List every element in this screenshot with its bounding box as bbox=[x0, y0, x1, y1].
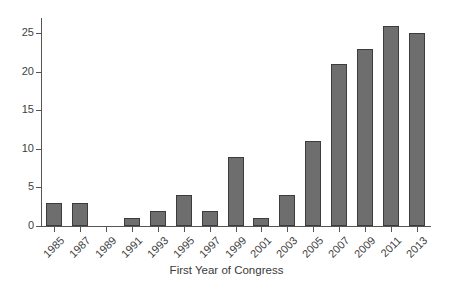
y-axis-tick-label: 20 bbox=[0, 66, 34, 77]
x-axis-tick bbox=[287, 227, 288, 232]
x-axis-tick bbox=[417, 227, 418, 232]
bar bbox=[72, 203, 88, 226]
bar bbox=[305, 141, 321, 226]
bar bbox=[383, 26, 399, 226]
x-axis-tick bbox=[184, 227, 185, 232]
bar-chart: 0510152025 19851987198919911993199519971… bbox=[0, 0, 453, 295]
x-axis-tick bbox=[106, 227, 107, 232]
bar bbox=[176, 195, 192, 226]
x-axis-tick bbox=[54, 227, 55, 232]
bar bbox=[331, 64, 347, 226]
bar bbox=[46, 203, 62, 226]
x-axis-tick bbox=[261, 227, 262, 232]
y-axis-tick-label: 15 bbox=[0, 104, 34, 115]
bar bbox=[253, 218, 269, 226]
x-axis-tick bbox=[339, 227, 340, 232]
x-axis-tick bbox=[210, 227, 211, 232]
x-axis-tick bbox=[391, 227, 392, 232]
bar bbox=[202, 211, 218, 226]
x-axis-tick bbox=[158, 227, 159, 232]
bar bbox=[124, 218, 140, 226]
x-axis-tick bbox=[365, 227, 366, 232]
y-axis-tick-label: 25 bbox=[0, 27, 34, 38]
bar bbox=[409, 33, 425, 226]
x-axis-tick bbox=[236, 227, 237, 232]
bar bbox=[150, 211, 166, 226]
bar bbox=[357, 49, 373, 226]
x-axis-tick bbox=[313, 227, 314, 232]
x-axis-title: First Year of Congress bbox=[0, 263, 453, 277]
x-axis-tick bbox=[80, 227, 81, 232]
bars-group bbox=[41, 18, 430, 226]
y-axis-tick-label: 5 bbox=[0, 181, 34, 192]
y-axis-tick-label: 10 bbox=[0, 143, 34, 154]
x-axis-tick bbox=[132, 227, 133, 232]
y-axis-tick-label: 0 bbox=[0, 220, 34, 231]
bar bbox=[279, 195, 295, 226]
bar bbox=[228, 157, 244, 226]
y-axis-tick bbox=[36, 226, 41, 227]
